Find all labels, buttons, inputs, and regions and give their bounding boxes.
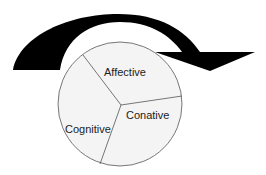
segment-label-cognitive: Cognitive <box>65 123 111 135</box>
attitude-diagram: Affective Conative Cognitive <box>0 0 266 175</box>
segment-label-conative: Conative <box>126 109 169 121</box>
segment-label-affective: Affective <box>104 66 146 78</box>
